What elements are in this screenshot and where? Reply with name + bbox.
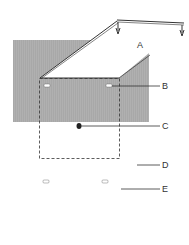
installation-diagram: A B C D E [0,0,189,245]
mounting-slot [102,180,108,183]
board-bottom [13,110,149,122]
label-c: C [162,121,169,131]
mounting-slot [43,180,49,183]
label-e: E [162,184,168,194]
label-a: A [137,40,143,50]
mounting-slot [106,84,112,87]
mounting-slot [44,84,50,87]
label-d: D [162,160,169,170]
label-b: B [162,81,168,91]
center-hole [77,123,82,129]
